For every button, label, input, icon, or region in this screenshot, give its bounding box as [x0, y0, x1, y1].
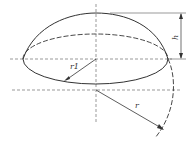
- h-arrow-top-icon: [179, 13, 183, 19]
- base-ellipse-front: [23, 59, 168, 84]
- r-radius-line: [96, 90, 163, 129]
- cap-outline: [23, 13, 168, 59]
- base-ellipse-back: [23, 34, 168, 59]
- spherical-cap-diagram: r1 r h: [0, 0, 189, 147]
- r1-arrowhead-icon: [64, 76, 70, 81]
- r-label: r: [135, 101, 140, 110]
- r1-label: r1: [70, 62, 79, 71]
- h-label: h: [171, 35, 180, 40]
- h-arrow-bottom-icon: [179, 53, 183, 59]
